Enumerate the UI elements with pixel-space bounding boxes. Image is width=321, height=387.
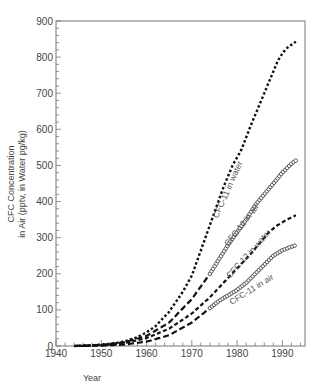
y-tick-label: 300 [36, 232, 53, 243]
y-axis-title-line2: in Air (pptv, in Water pg/kg) [17, 130, 27, 238]
y-tick-label: 400 [36, 196, 53, 207]
x-tick-label: 1990 [271, 348, 294, 359]
series-cfc-11-in-air [74, 244, 296, 346]
y-tick-label: 500 [36, 160, 53, 171]
data-series [74, 42, 297, 346]
y-tick-label: 600 [36, 124, 53, 135]
cfc-concentration-chart: 0100200300400500600700800900194019501960… [0, 0, 321, 387]
x-axis-title: Year [83, 373, 101, 383]
x-tick-label: 1980 [226, 348, 249, 359]
y-tick-label: 900 [36, 16, 53, 27]
y-tick-label: 700 [36, 88, 53, 99]
axis-ticks: 0100200300400500600700800900194019501960… [36, 16, 300, 360]
x-tick-label: 1940 [45, 348, 68, 359]
y-tick-label: 800 [36, 52, 53, 63]
y-tick-label: 100 [36, 304, 53, 315]
y-axis-title-line1: CFC Concentration [6, 145, 16, 222]
y-tick-label: 200 [36, 268, 53, 279]
x-tick-label: 1960 [135, 348, 158, 359]
series-label: CFC-11 in water [211, 159, 245, 219]
x-tick-label: 1970 [181, 348, 204, 359]
x-tick-label: 1950 [90, 348, 113, 359]
